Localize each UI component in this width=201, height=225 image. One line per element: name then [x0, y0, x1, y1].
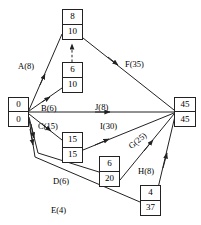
node-top-value: 6: [100, 157, 119, 172]
edge-label-h: H(8): [138, 167, 154, 176]
node-box[interactable]: 6 10: [62, 62, 83, 93]
node-top-value: 4: [141, 186, 160, 201]
edge-line-h: [158, 116, 175, 188]
node-top-value: 6: [63, 63, 82, 78]
edge-label-b: B(6): [41, 104, 57, 113]
edge-label-a: A(8): [18, 62, 34, 71]
node-box[interactable]: 8 10: [62, 9, 83, 40]
node-bottom-value: 45: [175, 112, 195, 126]
edge-arrow-g: [144, 140, 153, 151]
node-top-value: 15: [63, 133, 82, 148]
node-bottom-value: 15: [63, 148, 82, 163]
edge-arrow-i: [95, 139, 109, 145]
node-bottom-value: 37: [141, 201, 160, 216]
node-box-end[interactable]: 45 45: [174, 97, 196, 127]
node-bottom-value: 20: [100, 172, 119, 187]
node-top-value: 0: [9, 98, 28, 112]
edge-label-d: D(6): [53, 177, 69, 186]
edge-arrow-b: [42, 97, 50, 102]
node-box[interactable]: 6 20: [99, 156, 120, 187]
node-box[interactable]: 4 37: [140, 185, 161, 216]
node-bottom-value: 0: [9, 112, 28, 126]
edge-label-c: C(15): [38, 122, 58, 131]
edge-label-e: E(4): [51, 206, 66, 215]
network-diagram-canvas: 8 10 6 10 0 0 45 45 15 15 6 20 4 37 A(8)…: [0, 0, 201, 225]
node-box-start[interactable]: 0 0: [8, 97, 29, 127]
network-edges-svg: [0, 0, 201, 225]
node-bottom-value: 10: [63, 78, 82, 93]
edge-label-j: J(8): [95, 103, 108, 112]
edge-arrow-a: [40, 74, 45, 85]
edge-line-a: [29, 34, 62, 110]
node-top-value: 45: [175, 98, 195, 112]
edge-label-f: F(35): [125, 60, 144, 69]
edge-line-f: [83, 38, 174, 110]
edge-arrow-f: [108, 57, 118, 65]
node-top-value: 8: [63, 10, 82, 25]
edge-arrow-h: [163, 153, 167, 168]
edge-line-e: [29, 119, 140, 202]
edge-label-i: I(30): [100, 122, 117, 131]
node-bottom-value: 10: [63, 25, 82, 40]
node-box[interactable]: 15 15: [62, 132, 83, 163]
